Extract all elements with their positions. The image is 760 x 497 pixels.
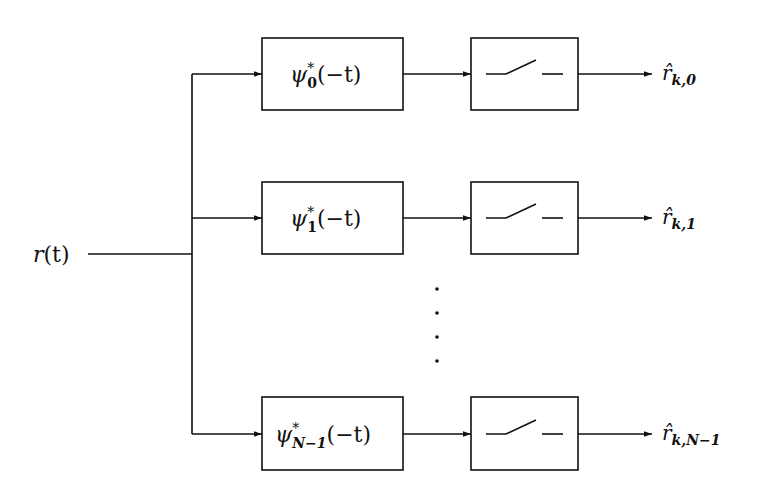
filter-label-1: ψ*1(−t) bbox=[290, 204, 361, 235]
branch-1 bbox=[192, 182, 652, 254]
input-label: r(t) bbox=[33, 242, 70, 267]
switch-icon bbox=[486, 60, 536, 74]
output-label-0: r̂k,0 bbox=[662, 61, 696, 88]
filter-label-n-minus-1: ψ*N−1(−t) bbox=[275, 420, 371, 451]
switch-icon bbox=[486, 204, 536, 218]
branch-n-minus-1 bbox=[192, 397, 652, 470]
output-label-1: r̂k,1 bbox=[662, 205, 696, 232]
switch-icon bbox=[486, 420, 536, 434]
output-label-n-minus-1: r̂k,N−1 bbox=[662, 421, 720, 448]
branch-0 bbox=[192, 38, 652, 110]
vertical-ellipsis-icon bbox=[435, 287, 439, 363]
filter-bank-diagram: r(t) ψ*0(−t) ψ*1(−t) ψ*N−1(−t) r̂k,0 r̂k… bbox=[0, 0, 760, 497]
filter-label-0: ψ*0(−t) bbox=[290, 60, 361, 91]
